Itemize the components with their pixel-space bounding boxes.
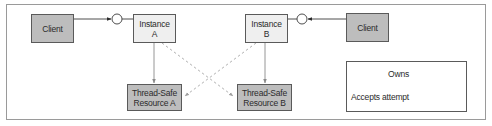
legend-attempt-label: Accepts attempt	[346, 92, 409, 102]
resource-b-node: Thread-Safe Resource B	[237, 84, 292, 111]
instance-a-node: Instance A	[133, 14, 176, 43]
client-right-label: Client	[357, 23, 378, 33]
resource-b-label: Thread-Safe Resource B	[242, 88, 287, 108]
legend-owns-label: Owns	[346, 69, 409, 79]
instance-b-label: Instance B	[251, 19, 282, 39]
client-left-label: Client	[42, 24, 63, 34]
client-a-connector	[74, 14, 133, 24]
interface-lollipop-icon	[112, 14, 122, 24]
resource-a-node: Thread-Safe Resource A	[127, 84, 182, 111]
client-right-node: Client	[346, 13, 389, 42]
instance-a-label: Instance A	[139, 19, 170, 39]
client-b-connector	[288, 14, 346, 24]
instance-b-node: Instance B	[245, 14, 288, 43]
resource-a-label: Thread-Safe Resource A	[132, 88, 177, 108]
interface-lollipop-icon	[297, 14, 307, 24]
client-left-node: Client	[31, 14, 74, 43]
